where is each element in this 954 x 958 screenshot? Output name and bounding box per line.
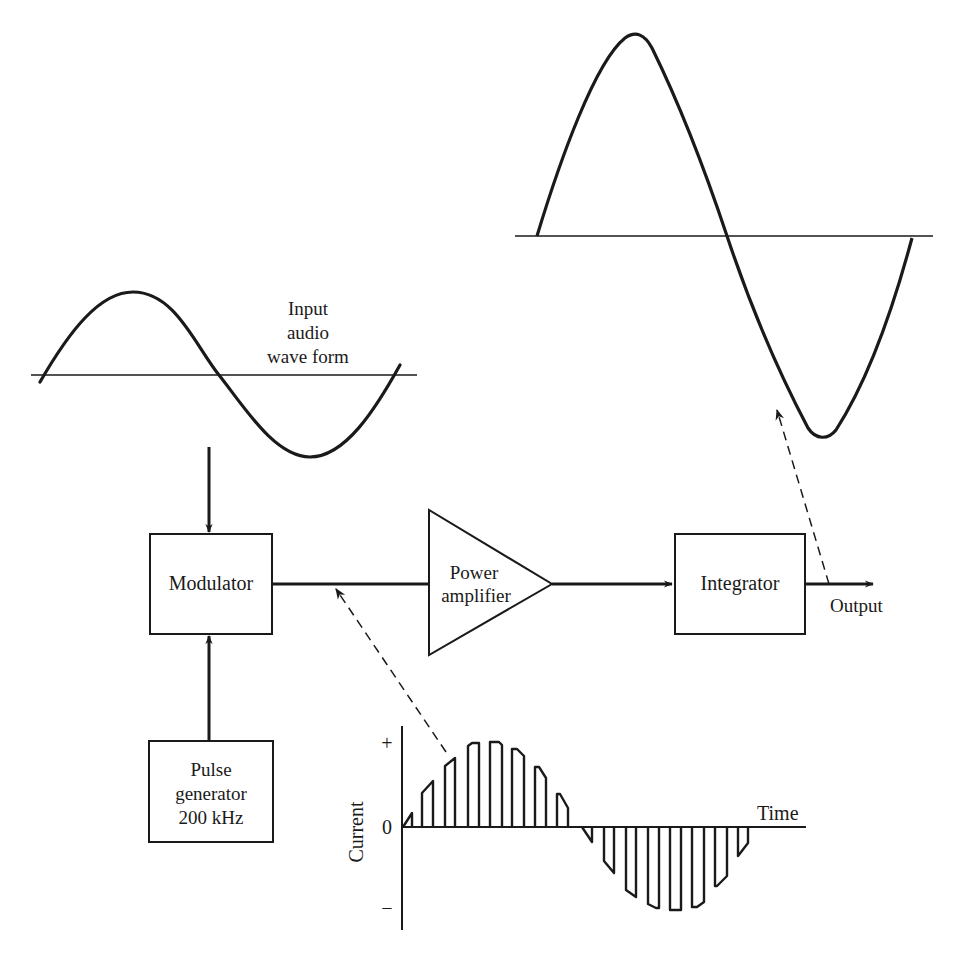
input-waveform-label-line3: wave form — [267, 346, 349, 367]
pulse-generator-label-line3: 200 kHz — [179, 807, 244, 828]
pwm-pulse — [445, 758, 455, 827]
pulse-generator-block: Pulse generator 200 kHz — [149, 741, 273, 842]
input-waveform: Input audio wave form — [31, 292, 417, 457]
pwm-pulse — [582, 827, 592, 842]
pwm-pulse — [604, 827, 614, 873]
pwm-chart-tick-minus: − — [381, 897, 392, 919]
pwm-pulse — [403, 813, 412, 827]
modulator-label: Modulator — [169, 572, 254, 594]
pwm-pulse — [557, 794, 568, 827]
pwm-pulse — [670, 827, 681, 910]
pulse-generator-label-line1: Pulse — [190, 759, 231, 780]
integrator-block: Integrator — [675, 534, 805, 634]
pwm-chart-tick-zero: 0 — [382, 816, 392, 838]
pwm-pulse — [692, 827, 704, 907]
input-waveform-label-line2: audio — [287, 322, 329, 343]
pwm-pulse — [535, 767, 546, 827]
power-amplifier-block: Power amplifier — [429, 510, 552, 655]
output-label: Output — [830, 595, 884, 616]
power-amplifier-label-line2: amplifier — [441, 585, 511, 606]
pwm-chart-tick-plus: + — [381, 732, 392, 754]
power-amplifier-label-line1: Power — [450, 562, 499, 583]
pwm-pulse — [715, 827, 727, 886]
input-waveform-label-line1: Input — [288, 298, 329, 319]
integrator-label: Integrator — [701, 572, 780, 595]
modulator-block: Modulator — [150, 534, 272, 634]
pwm-pulse — [626, 827, 636, 897]
pulse-generator-label-line2: generator — [175, 783, 247, 804]
pwm-pulse — [648, 827, 659, 908]
pwm-pulse — [512, 749, 524, 827]
pwm-pulse — [738, 827, 748, 856]
pwm-pulse — [422, 781, 433, 827]
output-waveform — [515, 34, 933, 437]
pwm-pulse — [468, 743, 479, 827]
pwm-chart: + 0 − Current Time — [345, 726, 806, 930]
pwm-chart-y-axis-label: Current — [345, 801, 367, 863]
pwm-pulse — [490, 742, 502, 827]
pwm-chart-x-axis-label: Time — [757, 802, 799, 824]
pwm-block-diagram: Input audio wave form Modulator Pulse ge… — [0, 0, 954, 958]
